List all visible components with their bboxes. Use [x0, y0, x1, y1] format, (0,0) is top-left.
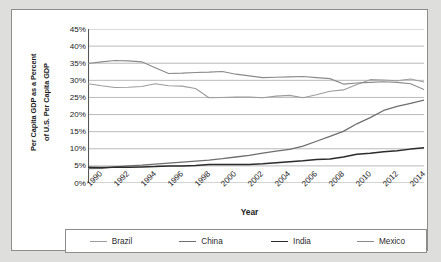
- y-axis-tick-label: 25%: [56, 93, 86, 102]
- legend-item-india[interactable]: India: [246, 237, 336, 246]
- legend-item-mexico[interactable]: Mexico: [336, 237, 426, 246]
- chart-legend: BrazilChinaIndiaMexico: [65, 229, 427, 253]
- y-axis-title-line-1: Per Capita GDP as a Percent: [26, 22, 40, 182]
- legend-label: China: [201, 237, 222, 246]
- legend-swatch-icon: [179, 241, 196, 242]
- y-axis-tick-labels: 45%40%35%30%25%20%15%10%5%0%: [56, 23, 86, 189]
- legend-label: Brazil: [112, 237, 132, 246]
- legend-item-china[interactable]: China: [156, 237, 246, 246]
- legend-swatch-icon: [90, 241, 107, 242]
- legend-label: Mexico: [379, 237, 405, 246]
- chart-svg: [88, 29, 424, 183]
- plot-area: [88, 29, 424, 183]
- y-axis-tick-label: 35%: [56, 59, 86, 68]
- y-axis-tick-label: 20%: [56, 110, 86, 119]
- y-axis-title: Per Capita GDP as a Percent of U.S. Per …: [26, 22, 56, 182]
- series-line-india: [88, 148, 424, 168]
- y-axis-tick-label: 5%: [56, 161, 86, 170]
- y-axis-tick-label: 10%: [56, 144, 86, 153]
- x-axis-tick-labels: 1990199219941996199820002002200420062008…: [72, 182, 441, 210]
- series-line-mexico: [88, 60, 424, 89]
- legend-label: India: [293, 237, 311, 246]
- y-axis-title-line-2: of U.S. Per Capita GDP: [39, 22, 53, 182]
- legend-swatch-icon: [357, 241, 374, 242]
- chart-card: Per Capita GDP as a Percent of U.S. Per …: [11, 9, 428, 251]
- chart-page: Per Capita GDP as a Percent of U.S. Per …: [0, 0, 441, 262]
- y-axis-tick-label: 40%: [56, 42, 86, 51]
- y-axis-tick-label: 45%: [56, 25, 86, 34]
- x-axis-title: Year: [12, 207, 441, 217]
- series-line-china: [88, 100, 424, 168]
- legend-item-brazil[interactable]: Brazil: [66, 237, 156, 246]
- y-axis-tick-label: 30%: [56, 76, 86, 85]
- y-axis-tick-label: 15%: [56, 127, 86, 136]
- legend-swatch-icon: [271, 241, 288, 242]
